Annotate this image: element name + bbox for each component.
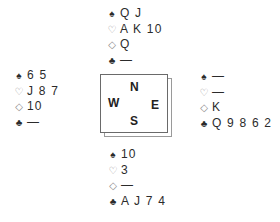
spade-icon: ♠ (14, 68, 24, 84)
east-hearts: — (212, 85, 225, 101)
east-spades-row: ♠ — (199, 69, 272, 85)
west-clubs-row: ♣ — (14, 115, 59, 131)
west-diamonds: 10 (27, 99, 43, 115)
compass-box: N W E S (100, 74, 168, 133)
west-hand: ♠ 6 5 ♡ J 8 7 ◇ 10 ♣ — (14, 68, 59, 130)
heart-icon: ♡ (108, 163, 118, 179)
west-hearts-row: ♡ J 8 7 (14, 84, 59, 100)
compass-south: S (130, 114, 138, 128)
club-icon: ♣ (199, 116, 209, 132)
west-spades: 6 5 (27, 68, 47, 84)
spade-icon: ♠ (108, 147, 118, 163)
west-hearts: J 8 7 (27, 84, 59, 100)
north-clubs-row: ♣ — (107, 53, 163, 69)
north-hearts-row: ♡ A K 10 (107, 22, 163, 38)
east-diamonds-row: ◇ K (199, 100, 272, 116)
south-hearts-row: ♡ 3 (108, 163, 166, 179)
heart-icon: ♡ (14, 84, 24, 100)
east-spades: — (212, 69, 225, 85)
north-diamonds: Q (120, 37, 131, 53)
west-diamonds-row: ◇ 10 (14, 99, 59, 115)
spade-icon: ♠ (107, 6, 117, 22)
diamond-icon: ◇ (14, 99, 24, 115)
club-icon: ♣ (108, 194, 118, 210)
north-spades-row: ♠ Q J (107, 6, 163, 22)
east-hand: ♠ — ♡ — ◇ K ♣ Q 9 8 6 2 (199, 69, 272, 131)
club-icon: ♣ (14, 115, 24, 131)
north-spades: Q J (120, 6, 142, 22)
west-spades-row: ♠ 6 5 (14, 68, 59, 84)
east-diamonds: K (212, 100, 221, 116)
heart-icon: ♡ (107, 22, 117, 38)
north-clubs: — (120, 53, 133, 69)
east-hearts-row: ♡ — (199, 85, 272, 101)
diamond-icon: ◇ (199, 100, 209, 116)
south-spades: 10 (121, 147, 137, 163)
south-hearts: 3 (121, 163, 129, 179)
spade-icon: ♠ (199, 69, 209, 85)
south-diamonds: — (121, 178, 134, 194)
north-hearts: A K 10 (120, 22, 163, 38)
compass-west: W (108, 96, 119, 110)
diamond-icon: ◇ (108, 178, 118, 194)
south-spades-row: ♠ 10 (108, 147, 166, 163)
west-clubs: — (27, 115, 40, 131)
diamond-icon: ◇ (107, 37, 117, 53)
south-hand: ♠ 10 ♡ 3 ◇ — ♣ A J 7 4 (108, 147, 166, 209)
south-clubs-row: ♣ A J 7 4 (108, 194, 166, 210)
south-diamonds-row: ◇ — (108, 178, 166, 194)
compass-east: E (151, 98, 159, 112)
south-clubs: A J 7 4 (121, 194, 166, 210)
heart-icon: ♡ (199, 85, 209, 101)
north-hand: ♠ Q J ♡ A K 10 ◇ Q ♣ — (107, 6, 163, 68)
east-clubs-row: ♣ Q 9 8 6 2 (199, 116, 272, 132)
compass-north: N (130, 80, 139, 94)
club-icon: ♣ (107, 53, 117, 69)
north-diamonds-row: ◇ Q (107, 37, 163, 53)
east-clubs: Q 9 8 6 2 (212, 116, 272, 132)
